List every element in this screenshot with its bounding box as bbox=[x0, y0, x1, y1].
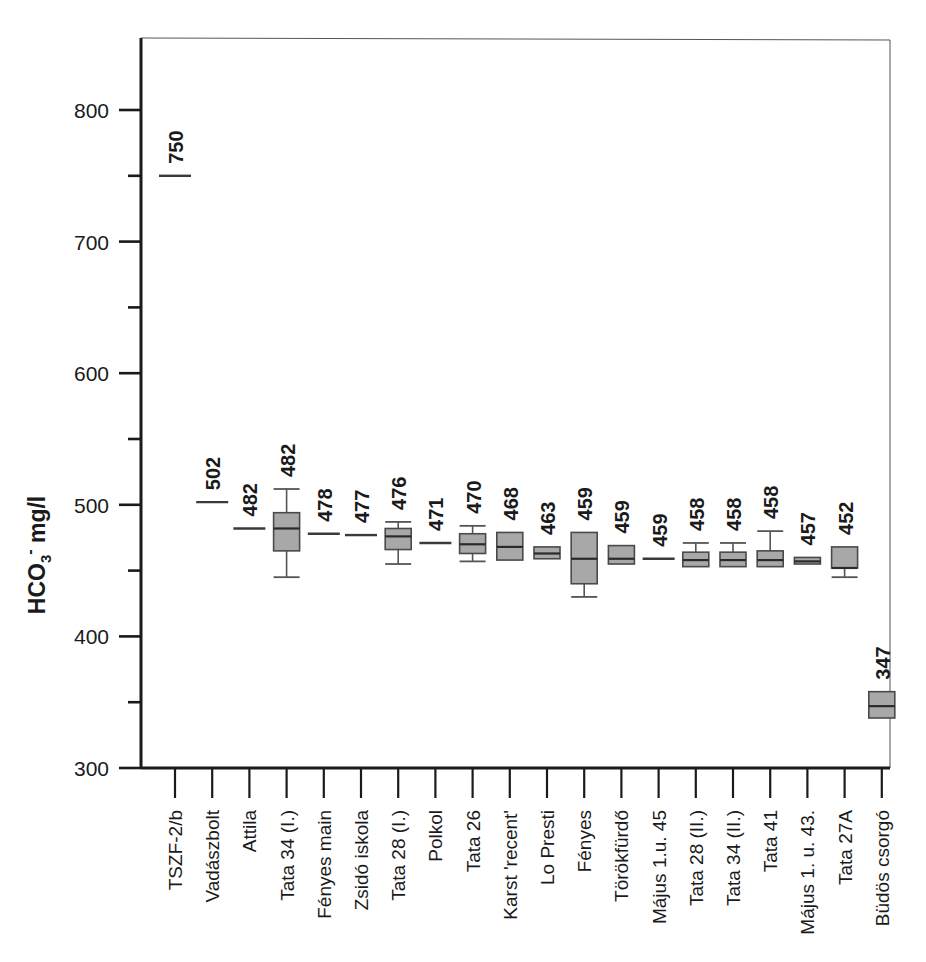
x-tick-label: Zsidó iskola bbox=[351, 810, 372, 911]
y-axis-title-unit: mg/l bbox=[24, 496, 50, 550]
x-tick-label: Büdös csorgó bbox=[872, 810, 893, 926]
box-body bbox=[757, 551, 783, 567]
y-tick-label: 800 bbox=[74, 99, 109, 122]
y-tick-label: 400 bbox=[74, 625, 109, 648]
data-value-label: 347 bbox=[872, 646, 894, 679]
x-tick-label: TSZF-2/b bbox=[165, 810, 186, 890]
y-tick-label: 300 bbox=[74, 757, 109, 780]
box-plot-item bbox=[534, 547, 560, 559]
data-value-label: 482 bbox=[239, 483, 261, 516]
x-tick-label: Május 1. u. 43. bbox=[797, 810, 818, 935]
data-value-label: 459 bbox=[611, 500, 633, 533]
box-body bbox=[385, 528, 411, 549]
chart-canvas: 800700600500400300 HCO3- mg/l 7505024824… bbox=[0, 0, 926, 962]
y-tick-label: 600 bbox=[74, 362, 109, 385]
box-plot-chart: 800700600500400300 HCO3- mg/l 7505024824… bbox=[0, 0, 926, 962]
y-axis-title: HCO3- mg/l bbox=[21, 496, 54, 614]
data-value-label: 478 bbox=[314, 488, 336, 521]
box-body bbox=[832, 547, 858, 568]
x-tick-label: Tata 34 (I.) bbox=[277, 810, 298, 901]
data-value-label: 750 bbox=[165, 130, 187, 163]
box-body bbox=[869, 692, 895, 718]
x-tick-label: Tata 28 (I.) bbox=[388, 810, 409, 901]
x-tick-label: Lo Presti bbox=[537, 810, 558, 885]
data-value-label: 458 bbox=[723, 498, 745, 531]
box-plot-item bbox=[497, 532, 523, 560]
data-value-label: 502 bbox=[202, 457, 224, 490]
x-tick-label: Tata 27A bbox=[835, 810, 856, 885]
x-tick-label: Törökfürdő bbox=[611, 810, 632, 902]
x-tick-label: Polkol bbox=[425, 810, 446, 862]
data-value-label: 477 bbox=[351, 490, 373, 523]
x-tick-label: Tata 26 bbox=[463, 810, 484, 872]
x-tick-label: Attila bbox=[239, 810, 260, 853]
box-body bbox=[608, 546, 634, 564]
data-value-label: 457 bbox=[797, 512, 819, 545]
x-tick-label: Fényes bbox=[574, 810, 595, 872]
data-value-label: 463 bbox=[537, 502, 559, 535]
data-value-label: 458 bbox=[760, 486, 782, 519]
y-axis-title-text: HCO3- mg/l bbox=[21, 496, 54, 614]
data-value-label: 459 bbox=[649, 513, 671, 546]
x-tick-label: Tata 28 (II.) bbox=[686, 810, 707, 906]
y-axis-title-base: HCO bbox=[24, 563, 50, 614]
data-value-label: 470 bbox=[463, 480, 485, 513]
x-tick-label: Vadászbolt bbox=[202, 809, 223, 902]
x-tick-label: Fényes main bbox=[314, 810, 335, 919]
box-plot-item bbox=[869, 692, 895, 718]
x-tick-label: Karst 'recent' bbox=[500, 810, 521, 920]
data-value-label: 482 bbox=[277, 444, 299, 477]
x-tick-label: Tata 34 (II.) bbox=[723, 810, 744, 906]
y-tick-label: 500 bbox=[74, 494, 109, 517]
y-axis-title-subscript: 3 bbox=[37, 555, 54, 563]
x-tick-label: Május 1.u. 45 bbox=[649, 810, 670, 924]
data-value-label: 471 bbox=[425, 498, 447, 531]
box-body bbox=[274, 513, 300, 551]
box-plot-item bbox=[794, 557, 820, 564]
data-value-label: 452 bbox=[835, 502, 857, 535]
data-value-label: 459 bbox=[574, 487, 596, 520]
box-plot-item bbox=[608, 546, 634, 564]
data-value-label: 458 bbox=[686, 498, 708, 531]
data-value-label: 468 bbox=[500, 487, 522, 520]
data-value-label: 476 bbox=[388, 477, 410, 510]
y-tick-label: 700 bbox=[74, 231, 109, 254]
x-tick-label: Tata 41 bbox=[760, 810, 781, 872]
